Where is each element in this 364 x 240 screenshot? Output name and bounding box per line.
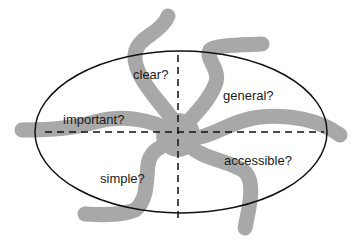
label-important: important? xyxy=(63,113,124,126)
diagram-canvas: clear? general? important? accessible? s… xyxy=(0,0,364,240)
label-general: general? xyxy=(223,89,274,102)
diagram-graphic xyxy=(0,0,364,240)
label-clear: clear? xyxy=(133,68,168,81)
label-accessible: accessible? xyxy=(224,154,292,167)
label-simple: simple? xyxy=(100,172,145,185)
